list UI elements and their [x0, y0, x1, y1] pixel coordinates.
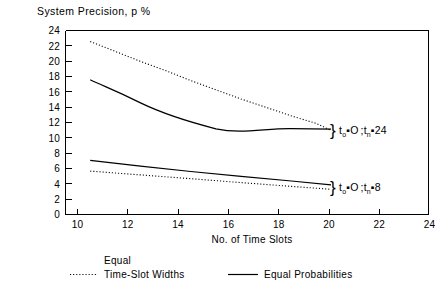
- y-tick-label: 0: [54, 209, 60, 220]
- y-axis-ticks: [66, 46, 72, 199]
- y-tick-label: 6: [54, 163, 60, 174]
- x-axis-tick-labels: 10 12 14 16 18 20 22 24: [72, 219, 436, 230]
- ann-u-eq2: ▪24: [371, 124, 387, 136]
- chart-figure: 24 22 20 18 16 14 12 10 8 6 4 2 0 10 12 …: [0, 0, 446, 291]
- legend-dotted-label-line2: Time-Slot Widths: [104, 269, 185, 280]
- series-line-equal-probabilities-8: [90, 160, 331, 185]
- y-tick-label: 14: [48, 102, 60, 113]
- x-tick-label: 24: [424, 219, 436, 230]
- y-tick-label: 12: [48, 117, 60, 128]
- ann-l-eq1: ▪O: [346, 181, 358, 193]
- annotation-group-lower: } to▪O;tn▪8: [330, 178, 381, 197]
- brace-lower-icon: }: [330, 178, 336, 197]
- series-line-equal-probabilities-24: [90, 80, 331, 131]
- x-tick-label: 14: [172, 219, 184, 230]
- legend-dotted-label-line1: Equal: [104, 255, 131, 266]
- y-axis-title: System Precision, p %: [37, 5, 150, 17]
- ann-l-eq2: ▪8: [371, 181, 381, 193]
- ann-u-eq1: ▪O: [346, 124, 358, 136]
- legend-solid-label: Equal Probabilities: [264, 269, 353, 280]
- y-tick-label: 8: [54, 148, 60, 159]
- x-tick-label: 20: [323, 219, 335, 230]
- x-axis-title: No. of Time Slots: [211, 234, 292, 245]
- x-tick-label: 22: [374, 219, 386, 230]
- data-series-group: [90, 42, 331, 190]
- series-line-equal-time-slot-widths-24: [90, 42, 331, 131]
- y-tick-label: 20: [48, 56, 60, 67]
- y-tick-label: 24: [48, 25, 60, 36]
- x-tick-label: 12: [122, 219, 134, 230]
- annotation-lower-text: to▪O;tn▪8: [339, 181, 381, 195]
- y-tick-label: 2: [54, 194, 60, 205]
- y-tick-label: 16: [48, 87, 60, 98]
- y-tick-label: 22: [48, 41, 60, 52]
- x-tick-label: 18: [273, 219, 285, 230]
- chart-legend: Equal Time-Slot Widths Equal Probabiliti…: [70, 255, 353, 280]
- annotation-group-upper: } to▪O;tn▪24: [330, 121, 387, 140]
- chart-svg: 24 22 20 18 16 14 12 10 8 6 4 2 0 10 12 …: [0, 0, 446, 291]
- y-tick-label: 18: [48, 71, 60, 82]
- brace-upper-icon: }: [330, 121, 336, 140]
- y-axis-tick-labels: 24 22 20 18 16 14 12 10 8 6 4 2 0: [48, 25, 60, 220]
- y-tick-label: 4: [54, 179, 60, 190]
- x-axis-ticks: [78, 209, 380, 215]
- y-tick-label: 10: [48, 133, 60, 144]
- annotation-upper-text: to▪O;tn▪24: [339, 124, 387, 138]
- x-tick-label: 10: [72, 219, 84, 230]
- x-tick-label: 16: [223, 219, 235, 230]
